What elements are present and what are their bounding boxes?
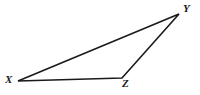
vertex-label-x: X	[5, 74, 12, 85]
vertex-label-y: Y	[183, 3, 190, 14]
triangle-xyz-drawing	[0, 0, 200, 95]
vertex-label-z: Z	[122, 78, 129, 89]
geometry-figure: X Y Z	[0, 0, 200, 95]
triangle-outline	[18, 14, 179, 81]
